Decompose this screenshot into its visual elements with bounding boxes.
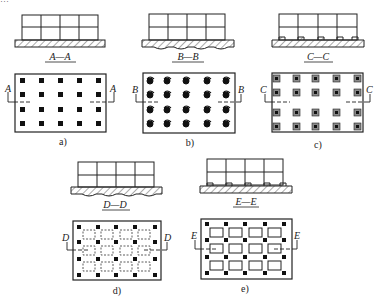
cut-letter-e-right: E (293, 230, 300, 241)
solid-cells-e (210, 228, 281, 270)
cut-letter-b-right: B (238, 84, 244, 95)
cut-letter-e-left: E (190, 230, 197, 241)
caption-c: c) (314, 139, 322, 151)
foundation-slab-b (142, 40, 234, 49)
panel-c: C—C C C c) (260, 14, 373, 151)
panel-a: A—A A A a) (4, 15, 117, 148)
section-label-e: E—E (234, 196, 256, 207)
caption-a: a) (59, 136, 67, 148)
cut-letter-c-left: C (260, 84, 267, 95)
section-label-c: C—C (307, 51, 330, 62)
cut-letter-d-right: D (163, 232, 172, 243)
pile-markers-e (205, 222, 286, 275)
panel-d: D—D D D d) (61, 162, 172, 297)
cut-letter-a-right: A (109, 83, 117, 94)
panel-e: E—E E E e) (190, 159, 300, 295)
pile-markers-d (77, 225, 157, 277)
dashed-cells-d (83, 230, 150, 271)
section-label-d: D—D (102, 199, 127, 210)
foundation-slab-c (272, 37, 364, 47)
cut-letter-b-left: B (132, 84, 138, 95)
building-elevation-e (207, 159, 283, 185)
cut-letter-c-right: C (366, 84, 373, 95)
foundation-slab-d (71, 187, 162, 196)
cut-letter-d-left: D (61, 232, 70, 243)
pile-markers-c (273, 75, 361, 130)
pile-markers-a (20, 78, 101, 126)
section-label-b: B—B (177, 51, 198, 62)
building-elevation-a (22, 15, 98, 40)
section-label-a: A—A (48, 51, 71, 62)
cut-letter-a-left: A (4, 83, 12, 94)
caption-b: b) (186, 137, 194, 149)
caption-d: d) (113, 285, 121, 297)
pile-markers-b (147, 77, 230, 127)
building-elevation-b (149, 14, 225, 40)
foundation-diagram: A—A A A a) B—B (0, 0, 380, 306)
panel-b: B—B B B b) (132, 14, 244, 149)
building-elevation-c (279, 14, 357, 40)
building-elevation-d (78, 162, 154, 187)
foundation-slab-a (15, 40, 105, 47)
caption-e: e) (241, 283, 249, 295)
